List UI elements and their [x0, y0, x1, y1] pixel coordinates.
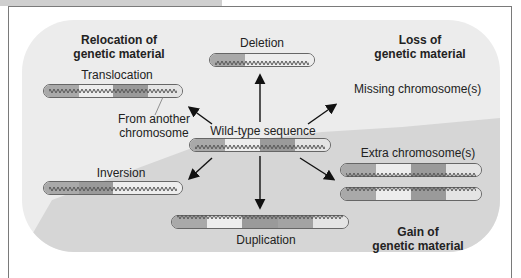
arrows-and-dna-overlay: [0, 0, 521, 274]
